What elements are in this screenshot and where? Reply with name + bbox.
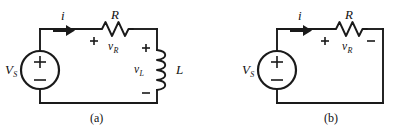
inductor-a-symbol xyxy=(157,50,165,90)
resistor-b-label: R xyxy=(345,8,353,21)
inductor-a-label: L xyxy=(176,63,183,76)
current-b-label: i xyxy=(298,9,302,22)
circuit-figure: VS i R vR vL L (a) VS i R vR (b) xyxy=(0,0,405,135)
current-a-label: i xyxy=(61,9,65,22)
resistor-a-symbol xyxy=(98,22,133,36)
current-arrow-a xyxy=(53,25,75,36)
resistor-a-voltage-label: vR xyxy=(108,41,118,53)
circuit-b-group xyxy=(258,22,383,103)
resistor-b-voltage-label: vR xyxy=(342,41,352,53)
source-a-label: VS xyxy=(5,63,17,76)
resistor-b-plus-sign xyxy=(321,37,329,45)
inductor-a-plus-sign xyxy=(142,44,150,52)
caption-b: (b) xyxy=(324,112,338,124)
caption-a: (a) xyxy=(90,112,103,124)
inductor-a-voltage-label: vL xyxy=(134,64,144,76)
resistor-a-plus-sign xyxy=(90,37,98,45)
resistor-a-label: R xyxy=(111,8,119,21)
circuit-a-group xyxy=(21,22,165,103)
resistor-b-symbol xyxy=(332,22,367,36)
source-b-label: VS xyxy=(242,63,254,76)
current-arrow-b xyxy=(290,25,312,36)
